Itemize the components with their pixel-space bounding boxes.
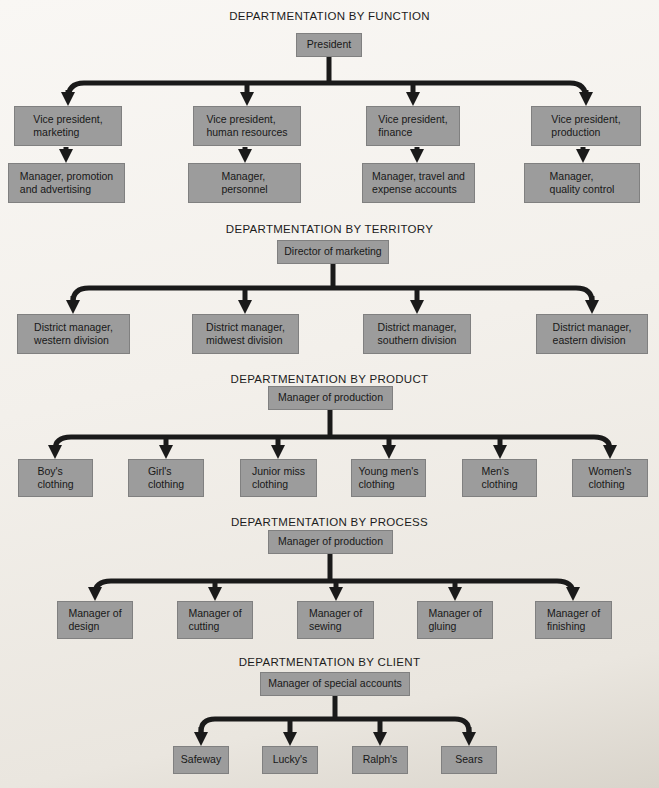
box-mens-clothing: Men's clothing [462, 459, 537, 497]
section-title-process: DEPARTMENTATION BY PROCESS [0, 516, 659, 528]
box-boys-clothing: Boy's clothing [18, 459, 93, 497]
box-label: Vice president, marketing [33, 113, 102, 140]
box-manager-gluing: Manager of gluing [417, 601, 493, 639]
box-director-of-marketing: Director of marketing [277, 240, 389, 264]
box-manager-finishing: Manager of finishing [535, 601, 612, 639]
box-label: Lucky's [273, 753, 308, 766]
box-manager-cutting: Manager of cutting [177, 601, 253, 639]
box-manager-of-special-accounts: Manager of special accounts [260, 672, 410, 696]
box-label: Girl's clothing [148, 465, 184, 492]
box-label: Manager, quality control [550, 170, 615, 197]
box-girls-clothing: Girl's clothing [128, 459, 204, 497]
box-president: President [296, 33, 362, 57]
box-label: District manager, midwest division [206, 321, 285, 348]
box-label: Manager of production [278, 391, 383, 404]
box-womens-clothing: Women's clothing [572, 459, 648, 497]
box-label: Men's clothing [481, 465, 517, 492]
box-label: Vice president, finance [378, 113, 447, 140]
box-label: Manager of finishing [547, 607, 600, 634]
box-junior-miss-clothing: Junior miss clothing [240, 459, 317, 497]
box-label: Vice president, production [551, 113, 620, 140]
box-manager-promotion-advertising: Manager, promotion and advertising [8, 163, 125, 203]
box-label: Manager of sewing [309, 607, 362, 634]
box-label: Ralph's [363, 753, 398, 766]
box-label: Manager of special accounts [268, 677, 402, 690]
box-label: Women's clothing [588, 465, 631, 492]
box-label: Manager, travel and expense accounts [372, 170, 465, 197]
box-young-mens-clothing: Young men's clothing [351, 459, 426, 497]
box-manager-personnel: Manager, personnel [188, 163, 301, 203]
box-safeway: Safeway [173, 746, 229, 774]
box-label: District manager, western division [34, 321, 113, 348]
box-label: Manager of design [68, 607, 121, 634]
box-district-manager-southern: District manager, southern division [363, 314, 471, 354]
box-label: Manager, promotion and advertising [20, 170, 113, 197]
box-ralphs: Ralph's [352, 746, 408, 774]
box-label: Manager of cutting [188, 607, 241, 634]
box-manager-design: Manager of design [57, 601, 133, 639]
box-label: Young men's clothing [359, 465, 419, 492]
box-label: Boy's clothing [37, 465, 73, 492]
box-label: Manager, personnel [221, 170, 267, 197]
box-vp-finance: Vice president, finance [366, 106, 460, 146]
box-sears: Sears [441, 746, 497, 774]
box-vp-human-resources: Vice president, human resources [193, 106, 301, 146]
box-label: President [307, 38, 351, 51]
box-manager-travel-expense: Manager, travel and expense accounts [362, 163, 475, 203]
section-title-function: DEPARTMENTATION BY FUNCTION [0, 10, 659, 22]
box-district-manager-western: District manager, western division [17, 314, 130, 354]
box-manager-of-production-product: Manager of production [268, 386, 393, 410]
box-district-manager-eastern: District manager, eastern division [536, 314, 648, 354]
box-label: Sears [455, 753, 482, 766]
box-vp-production: Vice president, production [531, 106, 641, 146]
box-manager-of-production-process: Manager of production [268, 530, 393, 554]
box-label: Director of marketing [284, 245, 381, 258]
section-title-territory: DEPARTMENTATION BY TERRITORY [0, 223, 659, 235]
box-manager-quality-control: Manager, quality control [524, 163, 640, 203]
box-label: Manager of production [278, 535, 383, 548]
box-label: District manager, eastern division [553, 321, 632, 348]
box-vp-marketing: Vice president, marketing [14, 106, 122, 146]
box-luckys: Lucky's [262, 746, 318, 774]
section-title-product: DEPARTMENTATION BY PRODUCT [0, 373, 659, 385]
box-label: Vice president, human resources [206, 113, 287, 140]
section-title-client: DEPARTMENTATION BY CLIENT [0, 656, 659, 668]
box-label: Manager of gluing [428, 607, 481, 634]
box-label: District manager, southern division [378, 321, 457, 348]
box-district-manager-midwest: District manager, midwest division [192, 314, 299, 354]
box-label: Safeway [181, 753, 221, 766]
org-chart-figure: DEPARTMENTATION BY FUNCTION President Vi… [0, 0, 659, 788]
box-label: Junior miss clothing [252, 465, 305, 492]
box-manager-sewing: Manager of sewing [297, 601, 374, 639]
